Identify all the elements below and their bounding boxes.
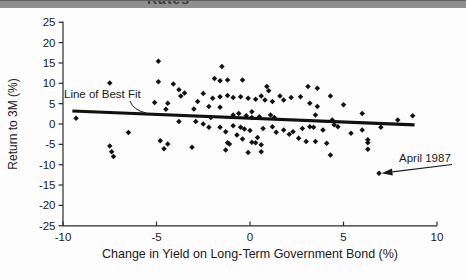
y-axis-title: Return to 3M (%) — [6, 78, 20, 169]
scatter-point — [311, 125, 317, 131]
scatter-point — [359, 127, 365, 132]
scatter-point — [247, 128, 253, 133]
scatter-point — [126, 130, 132, 136]
scatter-point — [273, 129, 279, 135]
scatter-point — [111, 154, 117, 160]
scatter-point — [260, 126, 266, 132]
scatter-point — [109, 149, 115, 155]
scatter-point — [201, 91, 207, 97]
scatter-point — [195, 99, 201, 105]
scatter-point — [313, 112, 319, 118]
scatter-point — [313, 139, 319, 145]
scatter-point — [156, 59, 162, 65]
scatter-point — [303, 139, 309, 145]
scatter-point — [225, 93, 231, 99]
scatter-point — [240, 136, 246, 142]
scatter-point — [307, 100, 313, 106]
scatter-point — [376, 170, 382, 176]
scatter-point — [217, 105, 223, 111]
y-tick-label: 10 — [43, 77, 56, 89]
scatter-point — [258, 142, 264, 148]
x-axis-title: Change in Yield on Long-Term Government … — [102, 247, 398, 261]
scatter-point — [238, 94, 244, 100]
scatter-point — [165, 100, 171, 106]
scatter-point — [410, 113, 416, 119]
scatter-point — [217, 78, 223, 84]
scatter-point — [171, 81, 177, 87]
y-tick-label: -25 — [39, 220, 56, 232]
scatter-point — [341, 102, 347, 108]
scatter-point — [193, 119, 199, 125]
y-tick-label: 20 — [43, 37, 56, 49]
scatter-point — [245, 150, 251, 156]
best-fit-annotation-leader — [130, 101, 146, 113]
scatter-point — [270, 124, 276, 130]
y-tick-label: 5 — [49, 98, 55, 110]
scatter-point — [255, 135, 261, 141]
scatter-point — [258, 149, 264, 155]
scatter-point — [223, 147, 229, 153]
scatter-point — [217, 94, 223, 100]
april-1987-arrow-head — [382, 168, 393, 175]
scatter-plot: 2520151050-5-10-15-20-25-10-50510 Change… — [0, 0, 466, 279]
scatter-point — [315, 104, 321, 110]
scatter-point — [395, 117, 401, 123]
scatter-point — [176, 119, 182, 125]
scatter-point — [163, 107, 169, 113]
scatter-point — [212, 76, 218, 82]
scatter-point — [156, 79, 162, 85]
scatter-point — [161, 146, 167, 152]
scatter-point — [328, 152, 334, 158]
scatter-point — [320, 127, 326, 132]
x-tick-label: -10 — [55, 231, 72, 243]
y-tick-label: 15 — [43, 57, 56, 69]
scatter-point — [348, 131, 354, 137]
plot-content: 2520151050-5-10-15-20-25-10-50510 — [39, 16, 444, 242]
x-tick-label: -5 — [151, 231, 161, 243]
scatter-point — [298, 94, 304, 100]
scatter-point — [107, 143, 113, 149]
y-tick-label: -10 — [39, 159, 56, 171]
y-tick-label: -5 — [45, 138, 55, 150]
scatter-point — [165, 141, 171, 147]
x-tick-label: 5 — [340, 231, 346, 243]
chart-screenshot: Rates 2520151050-5-10-15-20-25-10-50510 … — [0, 0, 466, 279]
scatter-point — [378, 125, 384, 131]
scatter-point — [245, 96, 251, 102]
scatter-point — [315, 85, 321, 91]
x-tick-label: 0 — [247, 231, 253, 243]
scatter-point — [359, 111, 365, 117]
scatter-point — [300, 126, 306, 132]
april-1987-arrow-shaft — [392, 165, 452, 172]
scatter-point — [365, 140, 371, 146]
scatter-point — [225, 77, 231, 83]
clipped-header-text: Rates — [147, 0, 190, 7]
scatter-point — [249, 109, 255, 115]
scatter-point — [230, 123, 236, 129]
scatter-point — [236, 111, 242, 117]
scatter-point — [176, 87, 182, 93]
scatter-point — [152, 100, 158, 106]
scatter-point — [281, 127, 287, 132]
scatter-point — [262, 97, 268, 103]
scatter-point — [234, 132, 240, 138]
scatter-point — [217, 125, 223, 131]
best-fit-annotation-label: Line of Best Fit — [64, 88, 142, 100]
y-tick-label: -15 — [39, 179, 56, 191]
scatter-point — [210, 96, 216, 102]
scatter-point — [230, 95, 236, 101]
y-tick-label: 0 — [49, 118, 55, 130]
scatter-point — [277, 93, 283, 99]
scatter-point — [240, 77, 246, 83]
scatter-point — [189, 144, 195, 150]
scatter-point — [365, 146, 371, 152]
scatter-point — [73, 116, 79, 122]
scatter-point — [191, 106, 197, 112]
scatter-point — [253, 96, 258, 102]
april-1987-annotation-label: April 1987 — [399, 152, 451, 164]
scatter-point — [223, 129, 229, 135]
scatter-point — [253, 140, 258, 146]
scatter-point — [328, 93, 334, 99]
scatter-point — [305, 84, 311, 90]
x-tick-label: 10 — [431, 231, 444, 243]
